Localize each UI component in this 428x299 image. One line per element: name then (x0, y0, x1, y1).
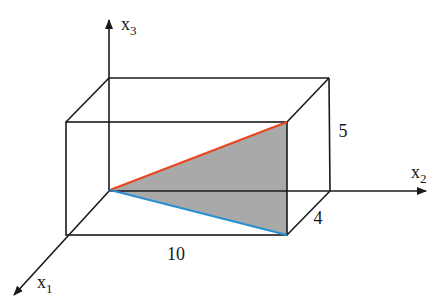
box-diagram: x3 x2 x1 10 4 5 (0, 0, 428, 299)
shaded-triangle (110, 122, 287, 235)
x3-label: x3 (121, 14, 137, 38)
x1-label: x1 (37, 272, 53, 296)
depth-label: 4 (314, 208, 323, 228)
height-label: 5 (339, 121, 348, 141)
x1-axis (14, 190, 110, 295)
length-label: 10 (167, 244, 185, 264)
x2-label: x2 (411, 162, 427, 186)
